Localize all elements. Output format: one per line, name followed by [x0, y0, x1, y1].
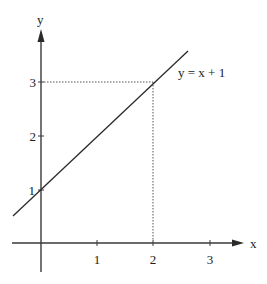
- y-axis-label: y: [37, 12, 44, 27]
- guide-lines: [44, 82, 153, 240]
- x-tick-label-1: 1: [94, 252, 101, 267]
- function-label: y = x + 1: [178, 65, 225, 80]
- y-tick-label-1: 1: [29, 183, 36, 198]
- y-axis-arrow-icon: [38, 29, 45, 42]
- x-tick-label-3: 3: [207, 252, 214, 267]
- x-axis-arrow-icon: [232, 240, 244, 247]
- x-tick-label-2: 2: [150, 252, 157, 267]
- labels: y x 1 2 3 1 2 3 y = x + 1: [29, 12, 258, 267]
- function-line: [13, 51, 188, 216]
- ticks: [38, 82, 210, 246]
- linear-function-plot: y x 1 2 3 1 2 3 y = x + 1: [0, 0, 267, 284]
- y-tick-label-3: 3: [30, 75, 37, 90]
- y-tick-label-2: 2: [30, 129, 37, 144]
- x-axis-label: x: [250, 236, 257, 251]
